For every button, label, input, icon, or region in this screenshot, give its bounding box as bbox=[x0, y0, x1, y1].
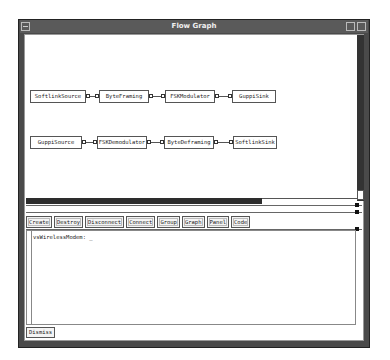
pane-divider bbox=[26, 205, 362, 206]
graph-canvas[interactable] bbox=[26, 35, 357, 198]
title-bar[interactable]: Flow Graph bbox=[20, 20, 368, 33]
node-fskmodulator[interactable]: FSKModulator bbox=[165, 90, 215, 103]
disconnect-button[interactable]: Disconnect bbox=[85, 216, 124, 228]
node-byteframing[interactable]: ByteFraming bbox=[99, 90, 149, 103]
maximize-button[interactable] bbox=[357, 22, 366, 31]
node-softlinksink[interactable]: SoftlinkSink bbox=[233, 136, 277, 149]
panel-button[interactable]: Panel bbox=[207, 216, 230, 228]
graph-button[interactable]: Graph bbox=[182, 216, 205, 228]
minimize-button[interactable] bbox=[346, 22, 355, 31]
vertical-scrollbar[interactable] bbox=[357, 35, 364, 201]
node-fskdemodulator[interactable]: FSKDemodulator bbox=[97, 136, 147, 149]
node-bytedeframing[interactable]: ByteDeframing bbox=[164, 136, 214, 149]
toolbar: Create Destroy Disconnect Connect Group … bbox=[26, 216, 250, 228]
connect-button[interactable]: Connect bbox=[126, 216, 155, 228]
code-button[interactable]: Code bbox=[231, 216, 250, 228]
sash-handle[interactable] bbox=[355, 203, 359, 207]
group-button[interactable]: Group bbox=[157, 216, 180, 228]
window-title: Flow Graph bbox=[20, 20, 368, 33]
node-softlinksource[interactable]: SoftlinkSource bbox=[30, 90, 86, 103]
node-guppisource[interactable]: GuppiSource bbox=[30, 136, 82, 149]
destroy-button[interactable]: Destroy bbox=[54, 216, 83, 228]
pane-divider bbox=[26, 212, 362, 213]
console-gutter bbox=[31, 231, 32, 324]
console-text: vsWirelessModem: _ bbox=[33, 234, 93, 240]
horizontal-scroll-thumb[interactable] bbox=[26, 198, 262, 204]
console-textarea[interactable]: vsWirelessModem: _ bbox=[26, 230, 356, 325]
create-button[interactable]: Create bbox=[26, 216, 52, 228]
dismiss-button[interactable]: Dismiss bbox=[26, 327, 55, 338]
menu-bar-icon bbox=[23, 26, 28, 27]
node-guppisink[interactable]: GuppiSink bbox=[232, 90, 276, 103]
sash-handle[interactable] bbox=[355, 210, 359, 214]
window-menu-button[interactable] bbox=[21, 22, 30, 31]
vertical-scroll-track[interactable] bbox=[357, 190, 364, 200]
